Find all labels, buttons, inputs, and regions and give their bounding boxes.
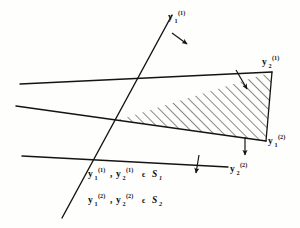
legend1-second-sup: (1) — [126, 166, 133, 174]
label-y2-2-base: y — [230, 164, 235, 174]
label-y2-1: y 2 (1) — [262, 54, 279, 69]
legend-line-1: y 1 (1) , y 2 (1) ϵ S 1 — [88, 166, 162, 181]
legend1-set-base: S — [152, 169, 157, 179]
label-y1-1-sup: (1) — [178, 9, 185, 17]
label-y2-1-sub: 2 — [269, 62, 272, 69]
label-y1-2-sub: 1 — [275, 141, 278, 148]
label-y1-1-base: y — [168, 12, 173, 22]
legend-line-2: y 1 (2) , y 2 (2) ϵ S 2 — [88, 192, 162, 207]
diagram-svg: y 1 (1) y 2 (1) y 1 (2) y 2 (2) y 1 (1) … — [0, 0, 300, 228]
legend2-first-base: y — [88, 195, 93, 205]
legend2-second-base: y — [116, 195, 121, 205]
legend1-first-sub: 1 — [95, 174, 98, 181]
legend1-second-sub: 2 — [123, 174, 126, 181]
legend2-second-sub: 2 — [123, 200, 126, 207]
legend2-set-base: S — [152, 195, 157, 205]
label-y1-2-sup: (2) — [278, 133, 285, 141]
label-y2-2-sup: (2) — [240, 161, 247, 169]
legend1-first-base: y — [88, 169, 93, 179]
legend2-member-symbol: ϵ — [142, 196, 146, 205]
legend2-first-sub: 1 — [95, 200, 98, 207]
legend2-comma: , — [110, 195, 113, 205]
label-y1-1: y 1 (1) — [168, 9, 185, 24]
label-y2-1-base: y — [262, 57, 267, 67]
label-y2-2: y 2 (2) — [230, 161, 247, 176]
arrow-y1-1 — [172, 33, 187, 44]
legend2-second-sup: (2) — [126, 192, 133, 200]
label-y2-2-sub: 2 — [237, 169, 240, 176]
legend2-first-sup: (2) — [98, 192, 105, 200]
arrow-y2-2 — [196, 155, 199, 173]
legend1-member-symbol: ϵ — [142, 170, 146, 179]
legend1-second-base: y — [116, 169, 121, 179]
figure-canvas: y 1 (1) y 2 (1) y 1 (2) y 2 (2) y 1 (1) … — [0, 0, 300, 228]
legend1-set-sub: 1 — [159, 174, 162, 181]
label-y1-2-base: y — [268, 136, 273, 146]
legend1-first-sup: (1) — [98, 166, 105, 174]
y2-1-line — [20, 72, 272, 84]
label-y2-1-sup: (1) — [272, 54, 279, 62]
legend1-comma: , — [110, 169, 113, 179]
label-y1-2: y 1 (2) — [268, 133, 285, 148]
legend2-set-sub: 2 — [158, 200, 162, 207]
label-y1-1-sub: 1 — [175, 17, 178, 24]
